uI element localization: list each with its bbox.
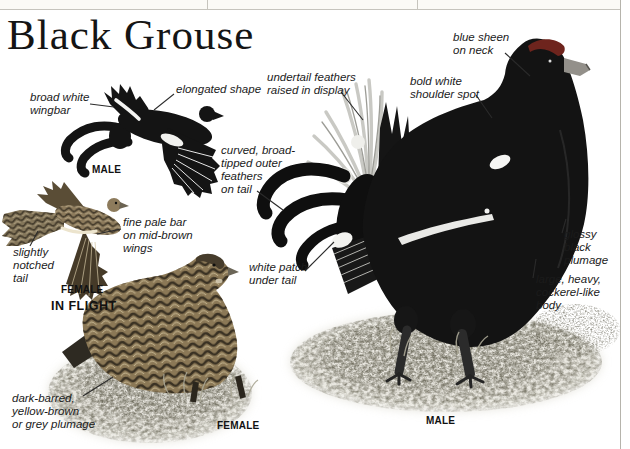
callout-blue-sheen-on-neck: blue sheen on neck bbox=[453, 31, 509, 57]
callout-fine-pale-bar: fine pale bar on mid-brown wings bbox=[123, 216, 193, 255]
callout-broad-white-wingbar: broad white wingbar bbox=[30, 91, 89, 117]
caption-flying-male: MALE bbox=[92, 165, 121, 175]
callout-glossy-black-plumage: glossy black plumage bbox=[564, 228, 608, 267]
callout-undertail-feathers: undertail feathers raised in display bbox=[267, 71, 356, 97]
callout-bold-white-shoulder-spot: bold white shoulder spot bbox=[410, 75, 479, 101]
caption-flying-female: FEMALE bbox=[61, 285, 103, 295]
female-bill bbox=[228, 267, 239, 276]
page-title: Black Grouse bbox=[7, 10, 254, 59]
callout-white-patch-under-tail: white patch under tail bbox=[249, 261, 307, 287]
flying-female-beak bbox=[119, 202, 129, 209]
flying-male-head bbox=[199, 106, 215, 122]
flying-female-head bbox=[107, 198, 121, 212]
callout-large-heavy-body: large, heavy, cockerel-like body bbox=[536, 273, 601, 312]
male-eye bbox=[549, 60, 552, 63]
female-eye bbox=[212, 263, 215, 266]
callout-curved-outer-feathers: curved, broad- tipped outer feathers on … bbox=[221, 144, 295, 196]
field-guide-page: Black Grouse broad white wingbar elongat… bbox=[0, 0, 630, 449]
flying-male-beak bbox=[213, 111, 224, 120]
caption-in-flight: IN FLIGHT bbox=[51, 301, 117, 311]
callout-elongated-shape: elongated shape bbox=[176, 83, 261, 96]
illustration-canvas bbox=[0, 0, 630, 449]
leader-broad-white-wingbar bbox=[90, 104, 114, 107]
caption-standing-male: MALE bbox=[426, 416, 455, 426]
leader-elongated-shape bbox=[154, 94, 174, 110]
female-leg bbox=[193, 382, 196, 402]
callout-dark-barred-plumage: dark-barred, yellow-brown or grey plumag… bbox=[12, 392, 95, 431]
caption-standing-female: FEMALE bbox=[217, 421, 259, 431]
callout-slightly-notched-tail: slightly notched tail bbox=[13, 246, 54, 285]
